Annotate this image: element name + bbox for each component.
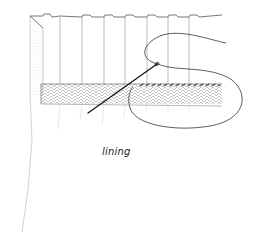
curtain-lining-diagram: [0, 0, 262, 239]
curtain-side-edge: [22, 16, 43, 232]
lining-label: lining: [102, 146, 131, 157]
curtain-heading: [30, 14, 222, 17]
lower-pleat-lines: [58, 105, 189, 130]
thread-loop: [129, 33, 242, 128]
lining-hem-band: [41, 84, 222, 106]
pleat-lines: [60, 17, 189, 84]
